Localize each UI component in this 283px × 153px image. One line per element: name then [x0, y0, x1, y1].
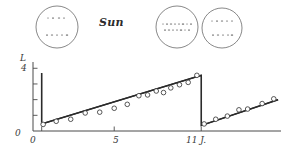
sunspot-mark [56, 34, 58, 35]
series-sawtooth-envelope [42, 73, 278, 126]
sunspot-mark [227, 35, 229, 36]
data-point-marker [186, 80, 191, 85]
sun-disk-cycle-decline [202, 8, 242, 48]
sunspot-mark [46, 34, 48, 35]
data-point-marker [161, 90, 166, 95]
sunspot-mark [184, 30, 186, 31]
sunspot-mark [217, 35, 220, 36]
sunspot-mark [174, 23, 176, 24]
sun-disk-cycle-maximum [156, 6, 198, 48]
sunspot-mark [212, 34, 214, 35]
sun-limb-circle [202, 8, 242, 48]
plot-group [33, 62, 281, 131]
sun-limb-circle [36, 6, 78, 48]
sunspot-mark [222, 34, 224, 35]
figure-canvas [0, 0, 283, 153]
sun-disk-cycle-start [36, 6, 78, 48]
series-regression-trend-cycle-1 [42, 75, 202, 124]
data-point-marker [41, 122, 46, 127]
series-regression-trend-cycle-2 [201, 100, 278, 126]
data-point-marker [83, 111, 88, 116]
sunspot-mark [166, 23, 168, 24]
sunspot-mark [226, 20, 228, 21]
sunspot-mark [178, 24, 180, 25]
data-point-marker [271, 97, 276, 102]
sunspot-mark [58, 18, 61, 19]
sunspot-mark [172, 29, 174, 30]
sunspot-mark [216, 20, 218, 21]
sun-disks-group [36, 6, 242, 48]
sunspot-mark [190, 23, 192, 24]
sunspot-mark [180, 29, 183, 30]
data-point-marker [68, 117, 73, 122]
data-point-marker [97, 110, 102, 115]
sunspot-mark [231, 21, 233, 22]
data-point-marker [145, 93, 150, 98]
data-point-marker [237, 108, 242, 113]
sunspot-mark [231, 34, 234, 35]
sunspot-mark [51, 35, 54, 36]
data-point-marker [154, 89, 159, 94]
data-point-marker [125, 102, 130, 107]
data-point-marker [225, 114, 230, 119]
sunspot-mark [162, 24, 164, 25]
sunspot-mark [170, 24, 173, 25]
sunspot-mark [176, 30, 178, 31]
data-point-marker [177, 82, 182, 87]
data-point-marker [260, 101, 265, 106]
sun-limb-circle [156, 6, 198, 48]
sunspot-mark [61, 35, 63, 36]
data-point-marker [112, 106, 117, 111]
sunspot-mark [63, 17, 65, 18]
data-point-marker [137, 93, 142, 98]
sunspot-mark [168, 30, 171, 31]
solar-cycle-figure: Sun L 4 0 0 5 11 J. [0, 0, 283, 153]
data-point-marker [168, 86, 173, 91]
data-point-marker [54, 119, 59, 124]
sunspot-mark [188, 29, 190, 30]
sunspot-mark [164, 29, 166, 30]
sunspot-mark [66, 34, 69, 35]
sunspot-mark [47, 18, 49, 19]
data-point-marker [245, 107, 250, 112]
sunspot-mark [182, 23, 185, 24]
sunspot-mark [186, 24, 188, 25]
data-point-marker [213, 117, 218, 122]
data-point-marker [202, 122, 207, 127]
scatter-series-observed-sunspot-counts [41, 73, 276, 127]
data-point-marker [195, 73, 200, 78]
sunspot-mark [211, 21, 213, 22]
sunspot-mark [52, 17, 54, 18]
sunspot-mark [221, 21, 224, 22]
